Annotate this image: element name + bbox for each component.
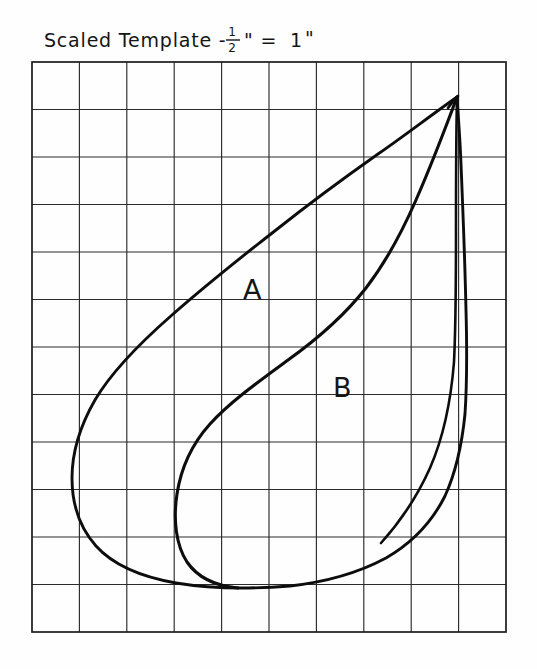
region-label-a: A [243,274,262,305]
region-label-b: B [333,372,352,403]
scaled-template-page: Scaled Template - 1 2 " = 1 " [0,0,537,669]
fraction-numerator: 1 [228,25,236,39]
title-prefix: Scaled Template - [44,29,226,51]
fraction-denominator: 2 [228,41,236,55]
title-block: Scaled Template - 1 2 " = 1 " [44,25,315,55]
title-scale-value: 1 [290,29,303,51]
title-after-fraction: " = [244,29,277,51]
template-drawing: Scaled Template - 1 2 " = 1 " [0,0,537,669]
title-unit-mark: " [305,27,315,49]
